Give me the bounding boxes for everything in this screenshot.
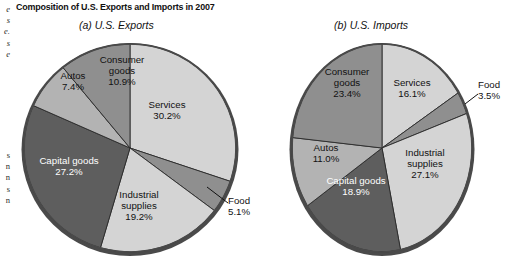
slice-label-imports-autos: Autos 11.0% xyxy=(303,143,349,165)
slice-label-imports-capital-goods: Capital goods 18.9% xyxy=(314,176,398,198)
callout-line-exports-food xyxy=(206,186,234,208)
callout-line-imports-food xyxy=(464,93,480,107)
slice-label-exports-capital-goods: Capital goods 27.2% xyxy=(25,156,113,178)
slice-label-imports-food: Food 3.5% xyxy=(478,80,522,102)
slice-label-exports-food: Food 5.1% xyxy=(228,196,274,218)
margin-text-fragment-top: e s e. s e xyxy=(0,4,10,60)
slice-label-imports-industrial-supplies: Industrial supplies 27.1% xyxy=(392,148,458,180)
slice-label-exports-consumer-goods: Consumer goods 10.9% xyxy=(89,55,155,87)
slice-label-imports-consumer-goods: Consumer goods 23.4% xyxy=(313,67,381,99)
slice-label-imports-services: Services 16.1% xyxy=(384,78,440,100)
slice-label-exports-services: Services 30.2% xyxy=(136,100,198,122)
margin-text-fragment-bottom: s n n s n xyxy=(0,150,10,206)
panel-b-subtitle: (b) U.S. Imports xyxy=(334,19,408,31)
slice-label-exports-industrial-supplies: Industrial supplies 19.2% xyxy=(106,190,172,222)
panel-a-subtitle: (a) U.S. Exports xyxy=(79,19,154,31)
figure-title: Composition of U.S. Exports and Imports … xyxy=(16,1,214,12)
